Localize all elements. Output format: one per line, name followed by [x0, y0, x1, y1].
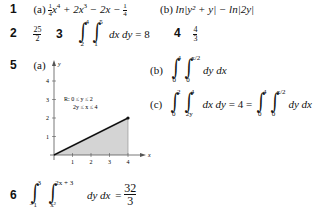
svg-text:x: x	[147, 152, 151, 158]
svg-text:3: 3	[108, 159, 111, 165]
answer-4: 4 43	[174, 26, 197, 43]
answer-number: 2	[10, 26, 17, 40]
integral-sign: ∫20	[169, 92, 180, 116]
expression-1b: ln|y² + y| − ln|2y|	[176, 3, 255, 15]
svg-text:4: 4	[127, 159, 130, 165]
integral-sign: ∫42y	[183, 92, 194, 116]
fraction: 43	[193, 26, 197, 43]
integral-sign: ∫40	[170, 58, 181, 82]
integral-sign: ∫42	[77, 22, 88, 46]
svg-text:y: y	[57, 61, 61, 67]
part-label: (c)	[150, 98, 162, 110]
answer-5c: (c) ∫20 ∫42y dx dy = 4 = ∫40 ∫x/20 dy dx	[150, 92, 312, 116]
answer-6: 6 ∫3−1 ∫2x + 3x² dy dx = 323	[10, 182, 136, 207]
answer-2: 2 252	[10, 26, 41, 43]
svg-text:3: 3	[46, 97, 49, 103]
region-graph: y x 1 2 3 4 1 2 3 4 R: 0 ≤ y ≤ 2 2y ≤ x …	[30, 58, 160, 170]
answer-3: 3 ∫42 ∫51 dx dy = 8	[56, 22, 150, 46]
part-label: (a)	[33, 3, 45, 15]
answer-5b: (b) ∫40 ∫x/20 dy dx	[150, 58, 227, 82]
answer-number: 6	[10, 188, 17, 202]
integral-sign: ∫51	[91, 22, 102, 46]
x-axis-arrow-icon	[140, 153, 146, 157]
part-label: (b)	[150, 64, 163, 76]
answer-number: 4	[174, 26, 181, 40]
integral-sign: ∫x/20	[183, 58, 194, 82]
answer-1: 1 (a) 14x4 + 2x3 − 2x − 14	[10, 2, 127, 18]
answer-number: 3	[56, 27, 63, 41]
svg-text:R: 0 ≤ y ≤ 2: R: 0 ≤ y ≤ 2	[64, 96, 93, 102]
integral-sign: ∫x/20	[269, 92, 280, 116]
part-label: (b)	[160, 3, 173, 15]
y-axis-arrow-icon	[52, 60, 56, 66]
integral-sign: ∫2x + 3x²	[47, 183, 58, 207]
endpoint	[126, 116, 129, 119]
answer-number: 5	[10, 58, 17, 72]
svg-text:4: 4	[46, 78, 49, 84]
svg-text:1: 1	[71, 159, 74, 165]
svg-text:2: 2	[46, 115, 49, 121]
result-fraction: 323	[124, 182, 136, 207]
svg-text:2y ≤ x ≤ 4: 2y ≤ x ≤ 4	[73, 104, 98, 110]
answer-1b: (b) ln|y² + y| − ln|2y|	[160, 3, 254, 15]
integral-sign: ∫3−1	[29, 183, 40, 207]
answer-number: 1	[10, 2, 17, 16]
integral-sign: ∫40	[255, 92, 266, 116]
svg-text:1: 1	[46, 134, 49, 140]
expression-1a: 14x4 + 2x3 − 2x − 14	[48, 3, 126, 15]
fraction: 252	[33, 26, 41, 43]
svg-text:2: 2	[90, 159, 93, 165]
